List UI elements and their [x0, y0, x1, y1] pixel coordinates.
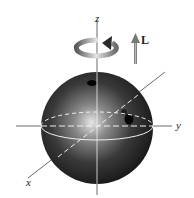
y-axis-label: y: [176, 120, 181, 131]
diagram-canvas: [0, 0, 194, 198]
vector-label: L: [141, 34, 149, 46]
finger-hole-icon: [125, 114, 134, 125]
x-axis-label: x: [26, 177, 31, 188]
finger-hole-icon: [87, 80, 97, 86]
angular-momentum-vector-icon: [131, 33, 140, 64]
rotation-arrow-icon: [76, 36, 116, 56]
z-axis-label: z: [95, 13, 99, 24]
